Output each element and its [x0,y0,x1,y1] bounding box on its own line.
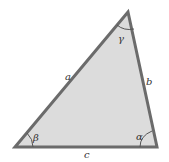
angle-alpha-label: α [136,131,143,142]
angle-beta-label: β [32,132,39,143]
side-b-label: b [146,76,152,87]
side-c-label: c [84,149,90,160]
triangle-svg: γ β α a b c [0,0,169,162]
triangle-shape [15,12,157,147]
triangle-diagram: γ β α a b c [0,0,169,162]
side-a-label: a [65,71,71,82]
angle-gamma-label: γ [118,33,124,44]
